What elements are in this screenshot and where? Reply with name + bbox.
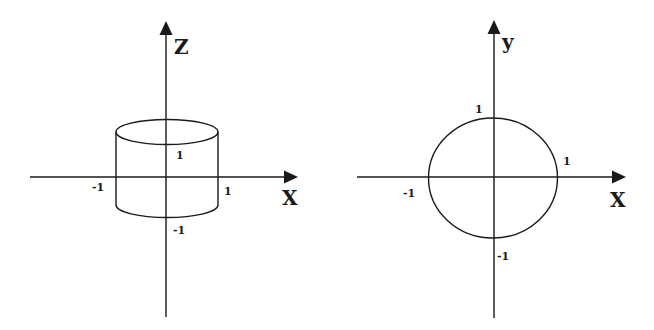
left-tick-z-neg: -1 [173,224,185,237]
right-tick-x-neg: -1 [403,187,415,200]
left-x-arrowhead-icon [284,171,298,184]
right-y-axis [488,20,501,318]
right-y-arrowhead-icon [488,20,501,34]
left-vertical-axis-label: Z [174,35,189,59]
left-tick-z-pos: 1 [176,149,184,162]
figure-canvas: Z X 1 -1 -1 1 y X 1 -1 -1 1 [0,0,654,330]
cylinder-top-ellipse [116,120,218,145]
cylinder-shape [116,120,218,218]
left-x-axis [30,171,298,184]
right-tick-y-pos: 1 [475,103,483,116]
left-tick-x-neg: -1 [92,181,104,194]
right-panel: y X 1 -1 -1 1 [357,20,626,318]
right-tick-x-pos: 1 [563,155,571,168]
unit-circle [429,118,558,238]
left-z-arrowhead-icon [160,21,173,35]
right-x-arrowhead-icon [612,171,626,184]
right-x-axis [357,171,626,184]
left-horizontal-axis-label: X [282,186,298,210]
right-tick-y-neg: -1 [497,250,509,263]
right-vertical-axis-label: y [501,30,515,54]
left-tick-x-pos: 1 [224,185,232,198]
left-z-axis [160,21,173,317]
cylinder-bottom-arc [116,205,218,218]
left-panel: Z X 1 -1 -1 1 [30,21,298,317]
right-horizontal-axis-label: X [610,188,626,212]
